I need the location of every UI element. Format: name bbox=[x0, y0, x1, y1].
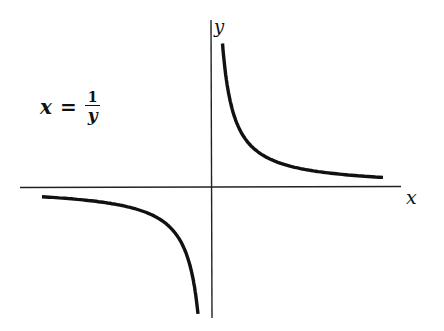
fraction-denominator: y bbox=[88, 106, 98, 124]
equation-label: x = 1 y bbox=[40, 90, 100, 124]
hyperbola-plot bbox=[0, 0, 444, 331]
x-axis-label: x bbox=[406, 186, 417, 208]
upper-branch-curve bbox=[223, 44, 384, 178]
equation-equals: = bbox=[60, 95, 77, 119]
equation-lhs: x bbox=[40, 95, 52, 119]
fraction-numerator: 1 bbox=[85, 90, 101, 106]
y-axis-label: y bbox=[214, 16, 224, 37]
y-axis bbox=[211, 20, 212, 318]
lower-branch-curve bbox=[42, 197, 198, 314]
x-axis bbox=[20, 187, 401, 188]
equation-fraction: 1 y bbox=[85, 90, 101, 124]
